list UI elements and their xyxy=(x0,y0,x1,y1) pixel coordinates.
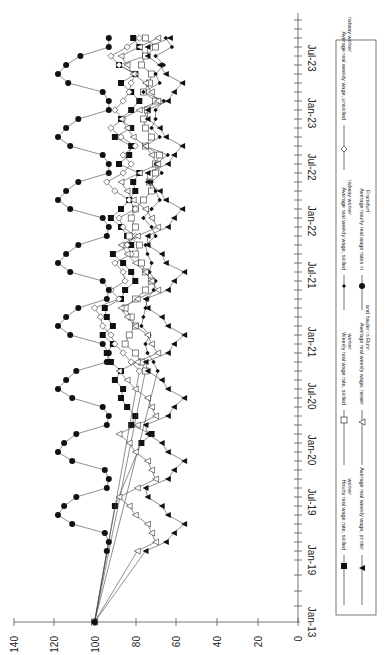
svg-text:railway worker: railway worker xyxy=(347,180,353,215)
svg-text:worker: worker xyxy=(347,477,353,495)
value-tick-label: 100 xyxy=(90,636,101,653)
value-tick-label: 60 xyxy=(171,636,182,648)
value-axis-labels: 140 120 100 80 60 40 20 0 xyxy=(9,636,304,653)
value-tick-label: 0 xyxy=(293,636,304,642)
wage-index-chart: 140 120 100 80 60 40 20 0 Jan-13 Jan-19 … xyxy=(0,0,386,655)
value-tick-label: 120 xyxy=(49,636,60,653)
date-tick-label: Jul-19 xyxy=(306,488,317,516)
svg-text:worker: worker xyxy=(347,332,353,350)
date-tick-label: Jul-23 xyxy=(306,44,317,72)
filled-circle-icon xyxy=(359,283,365,289)
legend: Hourly real wage rate, skilled worker We… xyxy=(336,17,376,615)
date-tick-label: Jul-22 xyxy=(306,153,317,181)
date-axis-labels: Jan-13 Jan-19 Jul-19 Jan-20 Jul-20 Jan-2… xyxy=(306,44,317,637)
filled-square-icon xyxy=(341,563,347,569)
value-tick-label: 80 xyxy=(131,636,142,648)
date-tick-label: Jan-19 xyxy=(306,545,317,576)
svg-text:Hourly real wage rate, skilled: Hourly real wage rate, skilled xyxy=(341,479,347,550)
date-axis xyxy=(294,13,302,622)
svg-text:Weekly real wage rate, skilled: Weekly real wage rate, skilled xyxy=(341,332,347,405)
svg-text:railway worker: railway worker xyxy=(347,17,353,52)
svg-text:Average real weekly wage, prin: Average real weekly wage, printer xyxy=(359,467,365,550)
value-axis xyxy=(14,618,300,626)
date-tick-label: Jan-21 xyxy=(306,327,317,358)
svg-text:Frankfurt: Frankfurt xyxy=(365,190,371,212)
svg-text:Average real weekly wage, hewe: Average real weekly wage, hewer xyxy=(359,323,365,405)
date-tick-label: Jul-20 xyxy=(306,382,317,410)
svg-text:and hauler in Ruhr: and hauler in Ruhr xyxy=(365,305,371,350)
open-square-icon xyxy=(341,417,347,423)
value-tick-label: 20 xyxy=(253,636,264,648)
series-layer xyxy=(55,35,187,625)
svg-text:Average real weekly wage, skil: Average real weekly wage, skilled xyxy=(341,188,347,270)
date-tick-label: Jan-20 xyxy=(306,435,317,466)
value-tick-label: 140 xyxy=(9,636,20,653)
svg-text:Average real weekly wage, unsk: Average real weekly wage, unskilled xyxy=(341,31,347,120)
date-tick-label: Jan-23 xyxy=(306,98,317,129)
date-tick-label: Jul-21 xyxy=(306,261,317,289)
date-tick-label: Jan-13 xyxy=(306,607,317,638)
date-tick-label: Jan-22 xyxy=(306,206,317,237)
value-tick-label: 40 xyxy=(212,636,223,648)
svg-text:Average hourly real wage rates: Average hourly real wage rates in xyxy=(359,188,365,270)
